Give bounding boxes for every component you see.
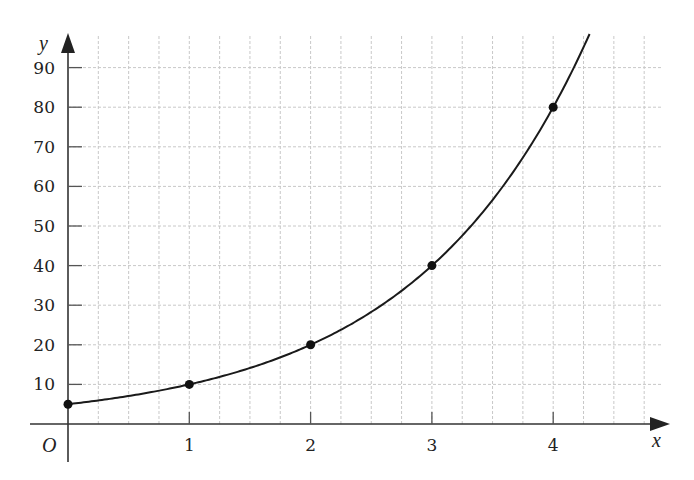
data-point [64, 400, 73, 409]
y-tick-label: 60 [33, 176, 55, 196]
data-point [185, 380, 194, 389]
y-axis-arrow-icon [61, 33, 75, 53]
data-curve [68, 34, 590, 404]
data-point [549, 103, 558, 112]
x-tick-label: 4 [548, 435, 559, 455]
x-axis-label: x [651, 429, 661, 451]
y-tick-label: 20 [33, 335, 55, 355]
x-tick-label: 1 [184, 435, 195, 455]
y-tick-label: 10 [33, 374, 55, 394]
y-tick-label: 90 [33, 58, 55, 78]
y-tick-label: 40 [33, 256, 55, 276]
x-tick-label: 3 [426, 435, 437, 455]
x-tick-label: 2 [305, 435, 316, 455]
y-tick-label: 70 [33, 137, 55, 157]
data-point [306, 340, 315, 349]
y-tick-label: 30 [33, 295, 55, 315]
axes: x y O [30, 32, 670, 462]
exponential-chart: x y O 1020304050607080901234 [0, 0, 694, 480]
grid-lines [68, 36, 662, 424]
data-point [427, 261, 436, 270]
y-tick-label: 50 [33, 216, 55, 236]
y-axis-label: y [37, 32, 48, 55]
y-tick-label: 80 [33, 97, 55, 117]
tick-marks: 1020304050607080901234 [33, 58, 558, 455]
origin-label: O [42, 434, 56, 456]
